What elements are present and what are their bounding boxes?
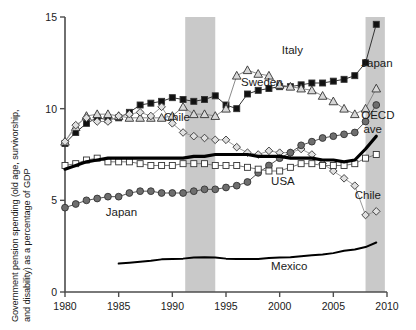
data-point-italy-1998 xyxy=(255,87,261,93)
data-point-japan-1992 xyxy=(190,188,197,195)
data-point-usa-2003 xyxy=(309,161,315,167)
x-tick-label-2000: 2000 xyxy=(268,300,292,312)
data-point-usa-2009 xyxy=(373,152,379,158)
data-point-japan-1994 xyxy=(212,186,219,193)
data-point-italy-2003 xyxy=(309,80,315,86)
label-sweden: Sweden xyxy=(241,76,283,88)
data-point-usa-2005 xyxy=(330,163,336,169)
data-point-japan-1990 xyxy=(169,190,176,197)
y-tick-label-10: 10 xyxy=(45,103,57,115)
series-line-sweden xyxy=(65,70,376,142)
data-point-usa-1991 xyxy=(180,161,186,167)
data-point-japan-1986 xyxy=(126,190,133,197)
data-point-usa-2008 xyxy=(363,155,369,161)
series-line-japan xyxy=(65,105,376,208)
data-point-usa-1988 xyxy=(148,163,154,169)
data-point-japan-1991 xyxy=(180,190,187,197)
data-point-japan-1981 xyxy=(72,201,79,208)
data-point-japan-2009 xyxy=(373,102,380,109)
label-oecd-2: ave xyxy=(363,123,382,135)
data-point-japan-1988 xyxy=(147,188,154,195)
data-point-japan-1989 xyxy=(158,190,165,197)
data-point-usa-2002 xyxy=(298,161,304,167)
data-point-italy-1987 xyxy=(137,102,143,108)
data-point-chile-1999 xyxy=(265,147,273,155)
data-point-japan-1996 xyxy=(233,182,240,189)
label-italy: Italy xyxy=(282,44,303,56)
data-point-usa-1989 xyxy=(159,163,165,169)
data-point-italy-1993 xyxy=(202,97,208,103)
data-point-usa-2000 xyxy=(277,168,283,174)
label-usa: USA xyxy=(271,175,295,187)
label-japan-2: Japan xyxy=(361,57,392,69)
data-point-italy-2004 xyxy=(320,80,326,86)
data-point-japan-2004 xyxy=(319,135,326,142)
data-point-japan-1995 xyxy=(223,184,230,191)
data-point-sweden-1997 xyxy=(243,66,252,74)
label-japan-1: Japan xyxy=(106,206,137,218)
y-tick-label-15: 15 xyxy=(45,11,57,23)
series-italy xyxy=(62,21,379,146)
data-point-usa-1990 xyxy=(169,163,175,169)
data-series-layer xyxy=(61,21,381,263)
series-line-mexico xyxy=(119,243,377,264)
data-point-usa-1992 xyxy=(191,161,197,167)
data-point-italy-1997 xyxy=(244,91,250,97)
data-point-usa-1995 xyxy=(223,163,229,169)
x-tick-label-1995: 1995 xyxy=(214,300,238,312)
data-point-usa-2001 xyxy=(287,164,293,170)
data-point-usa-1997 xyxy=(244,164,250,170)
data-point-italy-2007 xyxy=(352,73,358,79)
data-point-japan-1987 xyxy=(137,188,144,195)
y-tick-label-0: 0 xyxy=(51,286,57,298)
data-point-japan-1984 xyxy=(105,193,112,200)
x-tick-label-1980: 1980 xyxy=(53,300,77,312)
data-point-japan-1980 xyxy=(62,204,69,211)
data-point-usa-1994 xyxy=(212,163,218,169)
label-oecd-1: OECD xyxy=(361,109,394,121)
x-tick-label-2005: 2005 xyxy=(322,300,346,312)
data-point-italy-1996 xyxy=(234,106,240,112)
series-mexico xyxy=(119,243,377,264)
x-tick-label-2010: 2010 xyxy=(375,300,399,312)
data-point-italy-1988 xyxy=(148,100,154,106)
data-point-sweden-2004 xyxy=(318,92,327,100)
x-tick-label-1985: 1985 xyxy=(107,300,131,312)
data-point-japan-1985 xyxy=(115,193,122,200)
data-point-japan-1982 xyxy=(83,197,90,204)
plot-area: 0510151980198519901995200020052010 Italy… xyxy=(0,0,416,330)
data-point-sweden-2005 xyxy=(329,97,338,105)
data-point-japan-2002 xyxy=(298,142,305,149)
data-point-italy-2006 xyxy=(341,76,347,82)
data-point-usa-1987 xyxy=(137,161,143,167)
data-point-italy-1990 xyxy=(169,95,175,101)
data-point-chile-1996 xyxy=(233,143,241,151)
x-tick-label-1990: 1990 xyxy=(161,300,185,312)
label-mexico: Mexico xyxy=(271,260,307,272)
data-point-japan-1983 xyxy=(94,195,101,202)
label-chile-2: Chile xyxy=(355,189,381,201)
data-point-italy-1992 xyxy=(191,98,197,104)
y-tick-label-5: 5 xyxy=(51,194,57,206)
data-point-usa-1998 xyxy=(255,166,261,172)
label-chile-1: Chile xyxy=(164,111,190,123)
series-line-italy xyxy=(65,24,376,143)
data-point-japan-2006 xyxy=(341,131,348,138)
data-point-chile-1987 xyxy=(136,109,144,117)
data-point-sweden-1996 xyxy=(232,71,241,79)
data-point-italy-1991 xyxy=(180,97,186,103)
data-point-sweden-2007 xyxy=(351,110,360,118)
data-point-usa-1993 xyxy=(202,161,208,167)
data-point-chile-1995 xyxy=(222,136,230,144)
data-point-japan-2001 xyxy=(287,149,294,156)
series-oecd-ave xyxy=(65,136,376,169)
data-point-japan-2003 xyxy=(308,138,315,145)
data-point-sweden-2006 xyxy=(340,104,349,112)
data-point-italy-2005 xyxy=(330,78,336,84)
data-point-japan-1993 xyxy=(201,186,208,193)
data-point-italy-1994 xyxy=(212,93,218,99)
data-point-usa-1996 xyxy=(234,163,240,169)
data-point-usa-2004 xyxy=(320,163,326,169)
data-point-usa-1999 xyxy=(266,168,272,174)
pension-spending-chart: Government pension spending (old age, su… xyxy=(0,0,416,330)
